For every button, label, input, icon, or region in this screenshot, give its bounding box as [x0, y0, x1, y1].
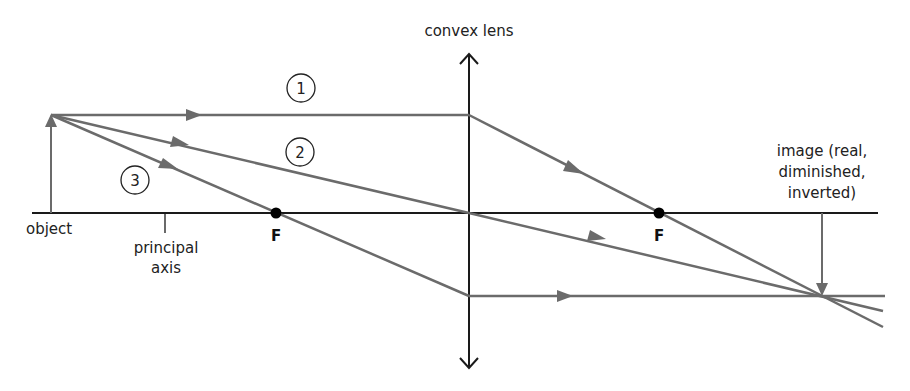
- ray-1-arrow-before: [186, 109, 202, 121]
- image-label-line1: image (real,: [777, 142, 868, 160]
- ray-1-arrow-after: [563, 160, 584, 174]
- object-label: object: [26, 220, 72, 238]
- ray-2-arrow-before: [170, 136, 189, 147]
- ray-3-arrow-before: [158, 158, 178, 169]
- ray-2-arrow-after: [587, 230, 606, 241]
- svg-text:1: 1: [296, 80, 306, 98]
- svg-text:2: 2: [295, 144, 305, 162]
- svg-text:3: 3: [130, 172, 140, 190]
- image-label-line2: diminished,: [779, 163, 866, 181]
- ray-number-1: 1: [287, 74, 315, 102]
- ray-diagram: 1 2 3 convex lens object principal axis …: [0, 0, 910, 391]
- focus-right-label: F: [654, 227, 664, 245]
- focal-point-right: [654, 208, 665, 219]
- principal-axis-label-line2: axis: [151, 259, 181, 277]
- ray-3-arrow-after: [557, 290, 573, 302]
- object-arrow: [45, 114, 57, 213]
- image-arrow: [816, 213, 828, 296]
- principal-axis-label-line1: principal: [134, 239, 199, 257]
- ray-number-3: 3: [121, 166, 149, 194]
- lens-label: convex lens: [424, 22, 513, 40]
- image-label-line3: inverted): [788, 184, 856, 202]
- focus-left-label: F: [271, 227, 281, 245]
- ray-number-2: 2: [286, 138, 314, 166]
- focal-point-left: [271, 208, 282, 219]
